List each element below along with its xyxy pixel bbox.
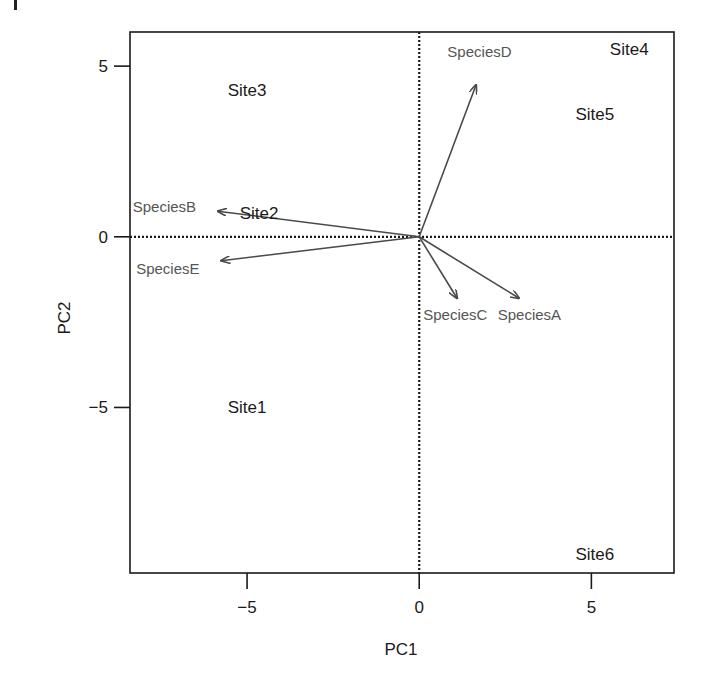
species-arrow (419, 237, 519, 298)
x-tick-label: −5 (237, 598, 256, 617)
axes: −505−505 (89, 57, 596, 617)
site-label: Site1 (228, 398, 267, 417)
x-tick-label: 0 (414, 598, 423, 617)
y-axis-label: PC2 (55, 301, 74, 334)
site-label: Site5 (575, 105, 614, 124)
y-tick-label: −5 (89, 398, 108, 417)
species-arrow (221, 237, 419, 261)
species-label: SpeciesD (447, 43, 511, 60)
species-arrow (419, 237, 457, 298)
y-tick-label: 5 (99, 57, 108, 76)
site-label: Site6 (575, 545, 614, 564)
site-label: Site2 (240, 204, 279, 223)
site-label: Site3 (228, 81, 267, 100)
species-label: SpeciesC (423, 306, 487, 323)
species-label: SpeciesA (498, 306, 561, 323)
species-vectors (218, 85, 519, 298)
site-label: Site4 (610, 40, 649, 59)
species-label: SpeciesE (136, 260, 199, 277)
species-arrow (419, 85, 476, 237)
biplot-chart: SpeciesASpeciesBSpeciesCSpeciesDSpeciesE… (0, 0, 705, 682)
y-tick-label: 0 (99, 228, 108, 247)
x-tick-label: 5 (587, 598, 596, 617)
species-label: SpeciesB (133, 198, 196, 215)
point-labels: SpeciesASpeciesBSpeciesCSpeciesDSpeciesE… (133, 40, 649, 564)
x-axis-label: PC1 (384, 640, 417, 659)
